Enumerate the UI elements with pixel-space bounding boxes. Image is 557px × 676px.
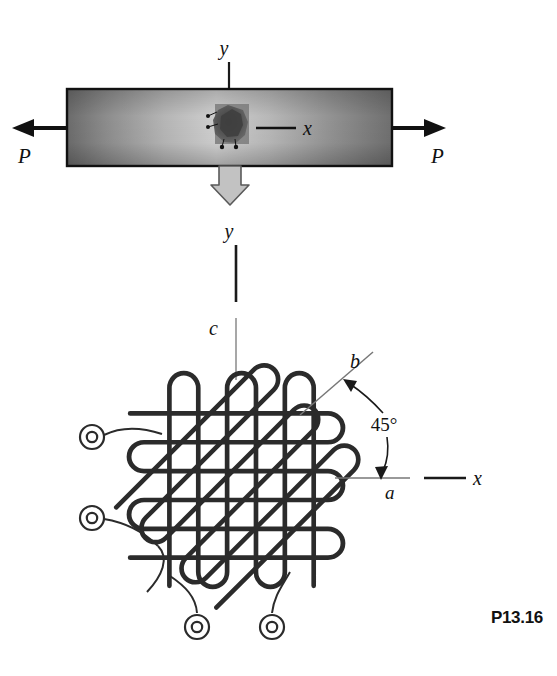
figure-number: P13.16 (491, 608, 543, 628)
terminal-c-bottom-right (260, 615, 284, 639)
top-view-group: y P P x (12, 37, 446, 205)
load-arrow-left (12, 119, 67, 137)
terminal-a-left (80, 425, 104, 449)
top-view-x-label: x (302, 117, 312, 139)
detail-callout-arrow (211, 166, 249, 205)
connector-y-label: y (223, 220, 234, 243)
load-arrow-right (392, 119, 446, 137)
top-view-y-label: y (218, 37, 229, 60)
connector-c-label: c (209, 317, 218, 339)
terminal-b-left (80, 506, 104, 530)
terminal-c-bottom-left (185, 615, 209, 639)
rosette-label-b: b (350, 350, 360, 372)
connector-group: y c (209, 220, 236, 380)
angle-label-45: 45° (371, 414, 398, 435)
rosette-detail-group: a x b 45° (80, 350, 482, 639)
load-label-right: P (430, 144, 444, 168)
rosette-grid-b (115, 359, 364, 608)
rosette-label-x: x (472, 467, 482, 489)
load-label-left: P (17, 144, 31, 168)
figure-root: y P P x (0, 0, 557, 676)
rosette-label-a: a (385, 482, 395, 503)
angle-annotation-45: 45° (343, 379, 397, 480)
figure-canvas: y P P x (0, 0, 557, 676)
